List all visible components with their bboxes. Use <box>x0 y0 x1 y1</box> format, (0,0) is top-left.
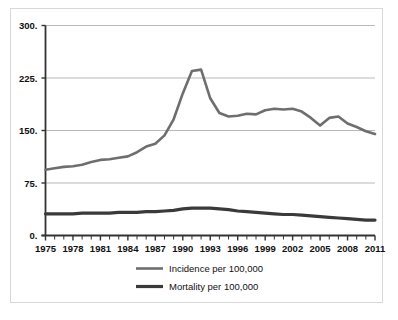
y-tick-label-75: 75. <box>24 178 37 189</box>
x-axis <box>42 236 376 241</box>
y-axis <box>42 26 46 236</box>
plot-wrapper: 0.75.150.225.300. 1975197819811984198719… <box>0 0 398 320</box>
series-line-mortality <box>46 208 376 220</box>
x-tick-label-1999: 1999 <box>255 243 276 254</box>
figure-container: 0.75.150.225.300. 1975197819811984198719… <box>0 0 398 320</box>
x-tick-label-1975: 1975 <box>35 243 57 254</box>
x-tick-label-1996: 1996 <box>227 243 248 254</box>
y-tick-label-150: 150. <box>19 125 38 136</box>
x-tick-label-1978: 1978 <box>62 243 83 254</box>
x-tick-label-2005: 2005 <box>310 243 332 254</box>
legend-label-mortality: Mortality per 100,000 <box>169 281 258 292</box>
line-chart: 0.75.150.225.300. 1975197819811984198719… <box>0 0 398 320</box>
chart-legend: Incidence per 100,000Mortality per 100,0… <box>136 263 263 292</box>
x-tick-label-2008: 2008 <box>337 243 358 254</box>
gridlines-group <box>46 26 376 184</box>
legend-label-incidence: Incidence per 100,000 <box>169 263 263 274</box>
y-tick-label-0: 0. <box>30 230 38 241</box>
data-series-group <box>46 70 376 221</box>
x-tick-label-1987: 1987 <box>145 243 166 254</box>
y-tick-label-300: 300. <box>19 20 38 31</box>
series-line-incidence <box>46 70 376 170</box>
x-tick-label-1993: 1993 <box>200 243 221 254</box>
y-tick-label-225: 225. <box>19 73 38 84</box>
x-tick-label-1984: 1984 <box>117 243 139 254</box>
x-tick-labels: 1975197819811984198719901993199619992002… <box>35 243 386 254</box>
y-tick-labels: 0.75.150.225.300. <box>19 20 38 241</box>
x-tick-label-1990: 1990 <box>172 243 193 254</box>
x-tick-label-2011: 2011 <box>365 243 386 254</box>
x-tick-label-1981: 1981 <box>90 243 112 254</box>
x-tick-label-2002: 2002 <box>282 243 303 254</box>
